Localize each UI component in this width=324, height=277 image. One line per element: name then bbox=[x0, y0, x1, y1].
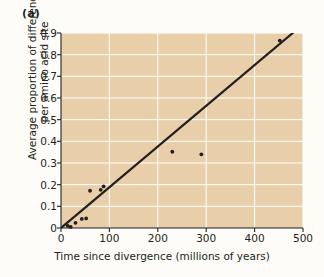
data-point bbox=[74, 221, 78, 225]
data-point bbox=[102, 185, 106, 189]
figure-panel: (a) Average proportion of differences pe… bbox=[0, 0, 324, 277]
data-point bbox=[99, 188, 103, 192]
data-point bbox=[199, 152, 203, 156]
data-point bbox=[80, 217, 84, 221]
scatter-plot bbox=[0, 0, 324, 277]
data-point bbox=[84, 217, 88, 221]
data-point bbox=[278, 39, 282, 43]
data-point bbox=[170, 150, 174, 154]
data-point bbox=[88, 189, 92, 193]
